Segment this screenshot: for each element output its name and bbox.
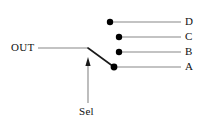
contact-label-c: C	[185, 31, 193, 42]
output-label: OUT	[11, 42, 35, 53]
selector-arrow-head	[85, 57, 90, 66]
wiring-layer	[0, 0, 204, 128]
schematic-canvas: OUT Sel D C B A	[0, 0, 204, 128]
contact-label-a: A	[185, 61, 193, 72]
switch-arm[interactable]	[88, 48, 114, 67]
contact-dot-c[interactable]	[116, 34, 122, 40]
selector-label: Sel	[79, 106, 94, 117]
contact-label-d: D	[185, 16, 193, 27]
contact-dot-a[interactable]	[111, 64, 118, 71]
contact-dot-b[interactable]	[116, 49, 122, 55]
contact-dot-d[interactable]	[107, 19, 113, 25]
contact-label-b: B	[185, 46, 193, 57]
